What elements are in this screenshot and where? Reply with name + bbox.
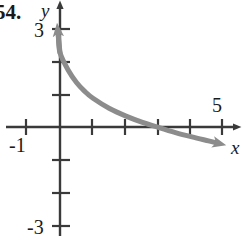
- y-tick-label-3: 3: [34, 20, 44, 40]
- x-tick-label-negative-1: -1: [9, 135, 26, 155]
- exponential-decay-curve-start-arrow: [58, 34, 60, 52]
- x-axis-label: x: [231, 138, 239, 157]
- y-tick-label-negative-3: -3: [27, 217, 44, 237]
- x-tick-label-5: 5: [212, 95, 222, 115]
- exercise-figure: 54.: [0, 0, 247, 245]
- y-axis-label: y: [41, 1, 49, 20]
